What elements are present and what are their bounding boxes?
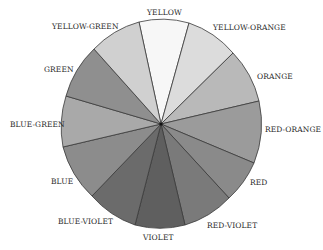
- label-yellow-orange: YELLOW-ORANGE: [213, 23, 286, 32]
- color-wheel-diagram: YELLOWYELLOW-ORANGEORANGERED-ORANGEREDRE…: [0, 0, 323, 250]
- label-blue: BLUE: [51, 177, 73, 186]
- label-orange: ORANGE: [257, 72, 293, 81]
- label-yellow: YELLOW: [147, 8, 182, 17]
- label-blue-green: BLUE-GREEN: [10, 120, 65, 129]
- center-point: [159, 122, 162, 125]
- label-violet: VIOLET: [143, 233, 174, 242]
- label-red: RED: [250, 178, 267, 187]
- label-red-orange: RED-ORANGE: [265, 125, 321, 134]
- label-red-violet: RED-VIOLET: [207, 221, 257, 230]
- label-green: GREEN: [44, 65, 74, 74]
- label-blue-violet: BLUE-VIOLET: [58, 217, 113, 226]
- label-yellow-green: YELLOW-GREEN: [52, 22, 119, 31]
